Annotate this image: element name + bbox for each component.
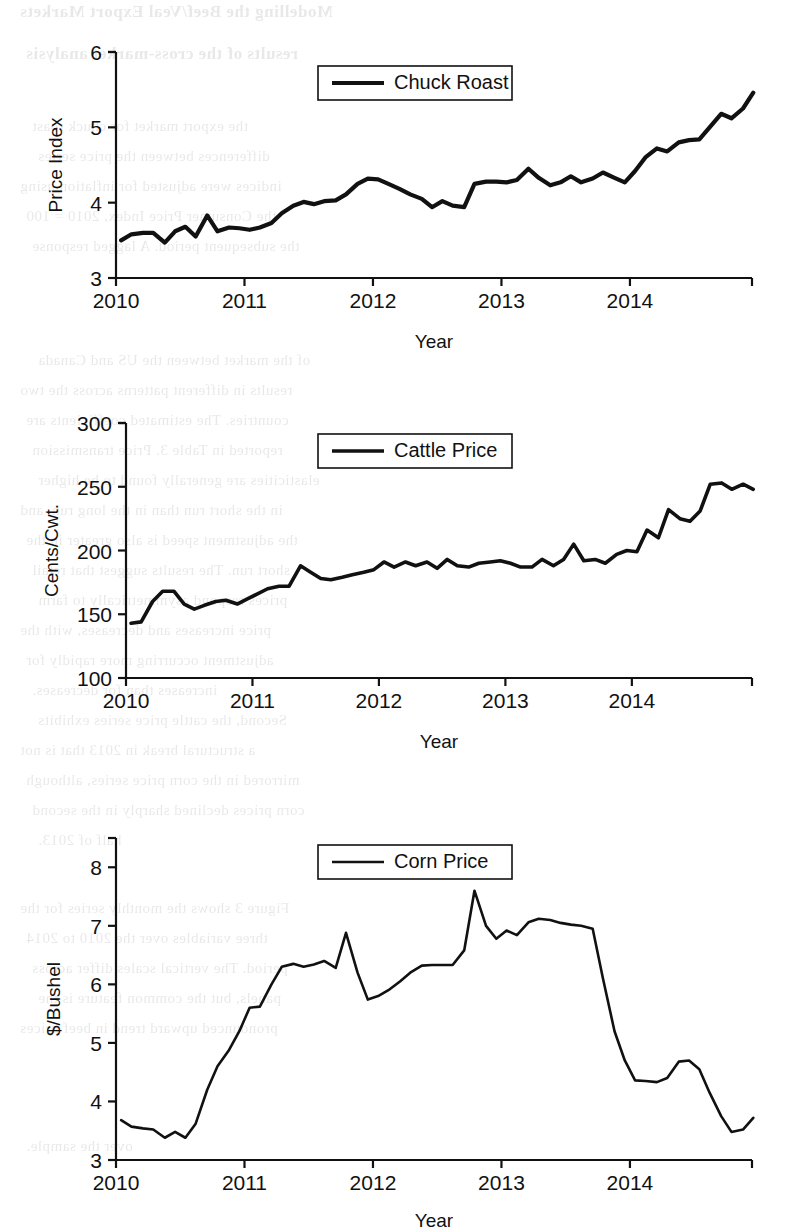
y-axis-title: $/Bushel <box>43 962 64 1036</box>
corn-price-chart-canvas: 34567820102011201220132014$/BushelYearCo… <box>0 805 786 1230</box>
y-tick-label: 4 <box>90 192 102 215</box>
x-tick-label: 2014 <box>607 289 654 312</box>
legend[interactable]: Corn Price <box>318 845 512 879</box>
y-tick-label: 5 <box>90 116 102 139</box>
x-tick-label: 2011 <box>222 1171 267 1194</box>
legend-label: Corn Price <box>394 850 488 872</box>
x-tick-label: 2013 <box>478 1171 525 1194</box>
y-tick-label: 8 <box>90 856 102 879</box>
y-tick-label: 6 <box>90 973 102 996</box>
y-tick-label: 3 <box>90 267 102 290</box>
x-tick-label: 2014 <box>607 1171 654 1194</box>
x-tick-label: 2010 <box>93 1171 140 1194</box>
y-axis-title: Cents/Cwt. <box>41 504 62 597</box>
x-tick-label: 2011 <box>222 289 267 312</box>
x-tick-label: 2013 <box>482 689 529 712</box>
x-axis-title: Year <box>420 731 459 752</box>
y-axis-title: Price Index <box>45 117 66 213</box>
y-tick-label: 100 <box>77 667 112 690</box>
legend-label: Chuck Roast <box>394 71 509 93</box>
x-tick-label: 2010 <box>103 689 150 712</box>
legend[interactable]: Chuck Roast <box>318 66 512 100</box>
x-axis-title: Year <box>415 331 454 352</box>
cattle-price-chart: 10015020025030020102011201220132014Cents… <box>0 390 786 790</box>
x-tick-label: 2011 <box>230 689 275 712</box>
y-tick-label: 300 <box>77 412 112 435</box>
x-tick-label: 2013 <box>478 289 525 312</box>
chuck-roast-chart: 345620102011201220132014Price IndexYearC… <box>0 18 786 390</box>
legend[interactable]: Cattle Price <box>318 434 512 468</box>
y-tick-label: 150 <box>77 603 112 626</box>
x-axis-title: Year <box>415 1210 454 1230</box>
x-tick-label: 2014 <box>608 689 655 712</box>
data-series-line <box>131 483 753 623</box>
x-tick-label: 2012 <box>350 1171 397 1194</box>
x-tick-label: 2010 <box>93 289 140 312</box>
corn-price-chart: 34567820102011201220132014$/BushelYearCo… <box>0 805 786 1230</box>
data-series-line <box>121 891 753 1138</box>
y-tick-label: 200 <box>77 540 112 563</box>
y-tick-label: 3 <box>90 1149 102 1172</box>
chuck-roast-chart-canvas: 345620102011201220132014Price IndexYearC… <box>0 18 786 390</box>
legend-label: Cattle Price <box>394 439 497 461</box>
y-tick-label: 250 <box>77 476 112 499</box>
cattle-price-chart-canvas: 10015020025030020102011201220132014Cents… <box>0 390 786 790</box>
y-tick-label: 4 <box>90 1090 102 1113</box>
y-tick-label: 6 <box>90 41 102 64</box>
x-tick-label: 2012 <box>350 289 397 312</box>
x-tick-label: 2012 <box>356 689 403 712</box>
data-series-line <box>121 93 753 243</box>
y-tick-label: 7 <box>90 915 102 938</box>
y-tick-label: 5 <box>90 1032 102 1055</box>
